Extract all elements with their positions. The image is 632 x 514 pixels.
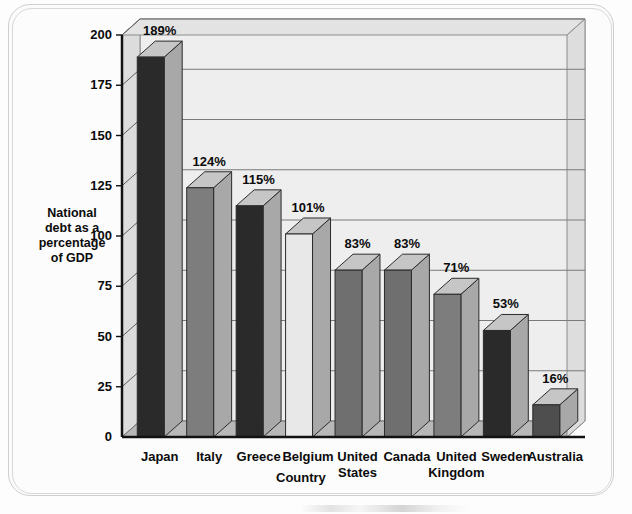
y-axis-tick-label: 0 — [60, 429, 112, 444]
bar-value-label: 124% — [174, 154, 244, 169]
y-axis-tick-label: 125 — [60, 178, 112, 193]
y-axis-tick-label: 75 — [60, 278, 112, 293]
y-axis-tick-label: 175 — [60, 77, 112, 92]
y-axis-title-line: of GDP — [16, 251, 128, 266]
page-canvas: Nationaldebt as apercentageof GDP Countr… — [0, 0, 632, 514]
y-axis-tick-label: 200 — [60, 27, 112, 42]
bar-value-label: 115% — [224, 172, 294, 187]
y-axis-tick-label: 25 — [60, 379, 112, 394]
bar-value-label: 101% — [273, 200, 343, 215]
y-axis-tick-label: 150 — [60, 128, 112, 143]
bar-value-label: 16% — [520, 371, 590, 386]
y-axis-tick-label: 100 — [60, 228, 112, 243]
bar-value-label: 53% — [471, 296, 541, 311]
bar-value-label: 83% — [372, 236, 442, 251]
x-axis-tick-label: Australia — [509, 449, 601, 465]
scan-artifact — [300, 505, 470, 512]
bar-value-label: 71% — [421, 260, 491, 275]
y-axis-tick-label: 50 — [60, 329, 112, 344]
bar-value-label: 189% — [125, 23, 195, 38]
y-axis-title-line: National — [16, 206, 128, 221]
